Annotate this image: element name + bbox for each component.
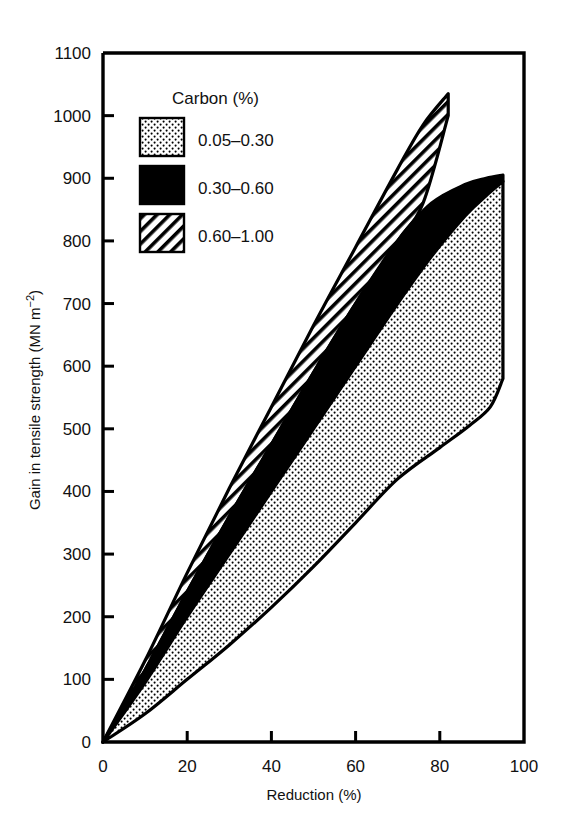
tensile-strength-chart: 020406080100 010020030040050060070080090…	[0, 0, 564, 830]
legend-swatch-solid-black	[140, 166, 184, 204]
legend-swatch-dotted	[140, 118, 184, 156]
legend-entry-label: 0.60–1.00	[198, 227, 274, 246]
y-tick-label: 100	[63, 670, 91, 689]
figure-container: 020406080100 010020030040050060070080090…	[0, 0, 564, 830]
y-tick-label: 1000	[53, 107, 91, 126]
legend-swatch-hatched	[140, 214, 184, 252]
y-axis-title-superscript: −2	[24, 295, 36, 308]
y-tick-label: 900	[63, 169, 91, 188]
band-0.05–0.30	[103, 181, 503, 742]
y-axis-title-main: Gain in tensile strength (MN m	[26, 307, 43, 510]
legend-entry-label: 0.30–0.60	[198, 179, 274, 198]
x-tick-label: 20	[178, 757, 197, 776]
legend-title: Carbon (%)	[172, 89, 259, 108]
y-axis-title-tail: )	[26, 290, 43, 295]
y-tick-label: 600	[63, 357, 91, 376]
y-tick-label: 300	[63, 545, 91, 564]
y-tick-label: 500	[63, 420, 91, 439]
x-axis-title: Reduction (%)	[266, 786, 361, 803]
x-tick-label: 40	[262, 757, 281, 776]
x-tick-label: 0	[98, 757, 107, 776]
y-tick-label: 200	[63, 608, 91, 627]
legend-entry-label: 0.05–0.30	[198, 131, 274, 150]
y-tick-label: 700	[63, 295, 91, 314]
legend: Carbon (%)0.05–0.300.30–0.600.60–1.00	[140, 89, 274, 252]
y-axis-title: Gain in tensile strength (MN m−2)	[24, 290, 43, 510]
y-tick-label: 0	[82, 733, 91, 752]
y-tick-label: 800	[63, 232, 91, 251]
y-tick-label: 400	[63, 482, 91, 501]
x-axis-ticks: 020406080100	[98, 731, 538, 776]
x-tick-label: 100	[510, 757, 538, 776]
y-axis-ticks: 010020030040050060070080090010001100	[53, 44, 114, 752]
y-tick-label: 1100	[54, 44, 91, 63]
x-tick-label: 60	[346, 757, 365, 776]
x-tick-label: 80	[430, 757, 449, 776]
